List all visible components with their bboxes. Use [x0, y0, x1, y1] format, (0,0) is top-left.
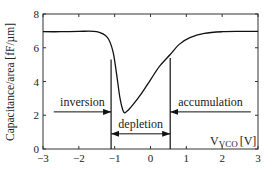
region-label-inversion: inversion	[60, 95, 105, 109]
y-tick-label: 0	[34, 143, 40, 155]
region-label-depletion: depletion	[118, 117, 163, 131]
region-label-accumulation: accumulation	[178, 95, 243, 109]
x-tick-label: −2	[73, 152, 85, 164]
svg-text:VVCO[V]: VVCO[V]	[210, 134, 256, 149]
y-tick-label: 4	[34, 76, 40, 88]
x-tick-label: 1	[184, 152, 190, 164]
x-tick-label: 3	[255, 152, 261, 164]
x-tick-label: 0	[148, 152, 154, 164]
y-tick-label: 2	[34, 109, 40, 121]
cv-chart: −3−2−10123 02468 inversiondepletionaccum…	[0, 0, 279, 170]
region-annotations: inversiondepletionaccumulation	[54, 95, 251, 134]
y-axis-label: Capacitance/area [fF/µm]	[4, 23, 17, 141]
y-tick-label: 6	[34, 42, 40, 54]
y-ticks: 02468	[34, 8, 259, 155]
x-axis-label: VVCO[V]	[210, 134, 256, 149]
x-tick-label: −1	[109, 152, 121, 164]
x-tick-label: 2	[219, 152, 225, 164]
y-tick-label: 8	[34, 8, 40, 20]
vertical-markers	[111, 58, 170, 149]
